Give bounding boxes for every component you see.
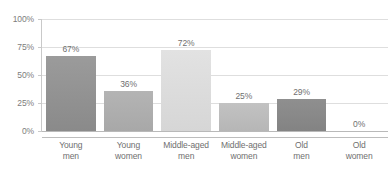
bar-chart: 0%25%50%75%100% 67%36%72%25%29%0% Youngm… xyxy=(0,0,392,172)
y-axis: 0%25%50%75%100% xyxy=(0,0,38,172)
category-label-line: men xyxy=(273,151,331,162)
y-tick-label: 50% xyxy=(17,71,34,80)
category-label: Youngmen xyxy=(42,140,100,162)
gridline xyxy=(42,131,388,132)
y-tick-mark xyxy=(38,75,42,76)
category-label: Oldmen xyxy=(273,140,331,162)
bar-value-label: 25% xyxy=(215,92,273,101)
category-label-line: women xyxy=(330,151,388,162)
y-tick-mark xyxy=(38,103,42,104)
category-label-line: women xyxy=(100,151,158,162)
y-tick-label: 0% xyxy=(22,127,34,136)
category-label-line: Old xyxy=(330,140,388,151)
bar[interactable] xyxy=(277,99,327,131)
x-axis-categories: YoungmenYoungwomenMiddle-agedmenMiddle-a… xyxy=(42,140,388,170)
y-tick-label: 75% xyxy=(17,43,34,52)
category-label-line: women xyxy=(215,151,273,162)
bar-value-label: 72% xyxy=(157,39,215,48)
category-label-line: Old xyxy=(273,140,331,151)
bar-slot: 67% xyxy=(42,19,100,131)
category-label: Middle-agedwomen xyxy=(215,140,273,162)
bar[interactable] xyxy=(46,56,96,131)
bar[interactable] xyxy=(161,50,211,131)
bar-slot: 72% xyxy=(157,19,215,131)
bar-slot: 0% xyxy=(330,19,388,131)
category-label-line: men xyxy=(157,151,215,162)
category-label-line: Young xyxy=(100,140,158,151)
bar-value-label: 36% xyxy=(100,80,158,89)
category-label-line: Young xyxy=(42,140,100,151)
category-label: Oldwomen xyxy=(330,140,388,162)
bar-slot: 29% xyxy=(273,19,331,131)
y-tick-mark xyxy=(38,131,42,132)
category-label-line: men xyxy=(42,151,100,162)
bars-layer: 67%36%72%25%29%0% xyxy=(42,19,388,131)
bar-value-label: 67% xyxy=(42,45,100,54)
bar-slot: 25% xyxy=(215,19,273,131)
bar-value-label: 0% xyxy=(330,120,388,129)
category-label-line: Middle-aged xyxy=(215,140,273,151)
bar-slot: 36% xyxy=(100,19,158,131)
y-tick-label: 100% xyxy=(13,15,34,24)
x-axis-rule xyxy=(42,137,388,138)
y-tick-mark xyxy=(38,19,42,20)
category-label: Youngwomen xyxy=(100,140,158,162)
bar[interactable] xyxy=(219,103,269,131)
y-tick-label: 25% xyxy=(17,99,34,108)
category-label: Middle-agedmen xyxy=(157,140,215,162)
y-tick-mark xyxy=(38,47,42,48)
category-label-line: Middle-aged xyxy=(157,140,215,151)
bar-value-label: 29% xyxy=(273,88,331,97)
bar[interactable] xyxy=(104,91,154,131)
